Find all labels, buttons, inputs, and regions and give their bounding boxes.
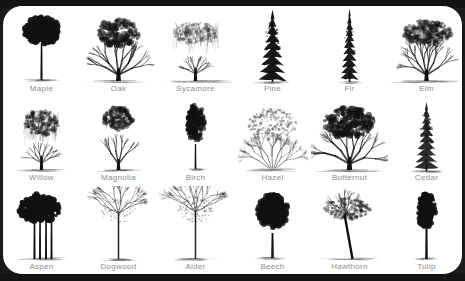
- tree-label: Sycamore: [176, 84, 214, 95]
- tree-label: Aspen: [29, 262, 53, 273]
- tree-chart-screenshot: MapleOakSycamorePineFirElmWillowMagnolia…: [0, 0, 465, 281]
- tree-cell-pine[interactable]: Pine: [234, 8, 311, 97]
- tree-cell-hawthorn[interactable]: Hawthorn: [311, 186, 388, 275]
- tree-label: Fir: [344, 84, 354, 95]
- pine-tree-icon: [234, 8, 311, 84]
- tree-cell-beech[interactable]: Beech: [234, 186, 311, 275]
- willow-tree-icon: [3, 97, 80, 173]
- tree-cell-magnolia[interactable]: Magnolia: [80, 97, 157, 186]
- tree-cell-tulip[interactable]: Tulip: [388, 186, 463, 275]
- tree-label: Alder: [185, 262, 205, 273]
- tree-label: Butternut: [332, 173, 367, 184]
- beech-tree-icon: [234, 186, 311, 262]
- tree-label: Beech: [260, 262, 284, 273]
- cedar-tree-icon: [388, 97, 463, 173]
- tree-label: Dogwood: [101, 262, 137, 273]
- tree-chart-card: MapleOakSycamorePineFirElmWillowMagnolia…: [2, 5, 463, 275]
- maple-tree-icon: [3, 8, 80, 84]
- tree-label: Maple: [30, 84, 53, 95]
- tree-cell-hazel[interactable]: Hazel: [234, 97, 311, 186]
- dogwood-tree-icon: [80, 186, 157, 262]
- magnolia-tree-icon: [80, 97, 157, 173]
- tree-label: Cedar: [415, 173, 438, 184]
- tree-cell-fir[interactable]: Fir: [311, 8, 388, 97]
- butternut-tree-icon: [311, 97, 388, 173]
- birch-tree-icon: [157, 97, 234, 173]
- aspen-tree-icon: [3, 186, 80, 262]
- tree-cell-dogwood[interactable]: Dogwood: [80, 186, 157, 275]
- tree-label: Pine: [264, 84, 281, 95]
- tree-label: Elm: [419, 84, 434, 95]
- tree-cell-oak[interactable]: Oak: [80, 8, 157, 97]
- tree-cell-alder[interactable]: Alder: [157, 186, 234, 275]
- tree-cell-willow[interactable]: Willow: [3, 97, 80, 186]
- tree-label: Willow: [29, 173, 54, 184]
- tree-label: Magnolia: [101, 173, 136, 184]
- hazel-tree-icon: [234, 97, 311, 173]
- tree-cell-cedar[interactable]: Cedar: [388, 97, 463, 186]
- tree-label: Birch: [186, 173, 206, 184]
- tree-cell-sycamore[interactable]: Sycamore: [157, 8, 234, 97]
- tree-cell-butternut[interactable]: Butternut: [311, 97, 388, 186]
- alder-tree-icon: [157, 186, 234, 262]
- tree-label: Hawthorn: [331, 262, 368, 273]
- sycamore-tree-icon: [157, 8, 234, 84]
- elm-tree-icon: [388, 8, 463, 84]
- tree-cell-maple[interactable]: Maple: [3, 8, 80, 97]
- fir-tree-icon: [311, 8, 388, 84]
- tree-cell-aspen[interactable]: Aspen: [3, 186, 80, 275]
- tree-label: Hazel: [262, 173, 284, 184]
- tree-label: Tulip: [417, 262, 436, 273]
- hawthorn-tree-icon: [311, 186, 388, 262]
- oak-tree-icon: [80, 8, 157, 84]
- tree-cell-elm[interactable]: Elm: [388, 8, 463, 97]
- tree-label: Oak: [111, 84, 127, 95]
- tree-grid: MapleOakSycamorePineFirElmWillowMagnolia…: [3, 8, 463, 274]
- tree-cell-birch[interactable]: Birch: [157, 97, 234, 186]
- tulip-tree-icon: [388, 186, 463, 262]
